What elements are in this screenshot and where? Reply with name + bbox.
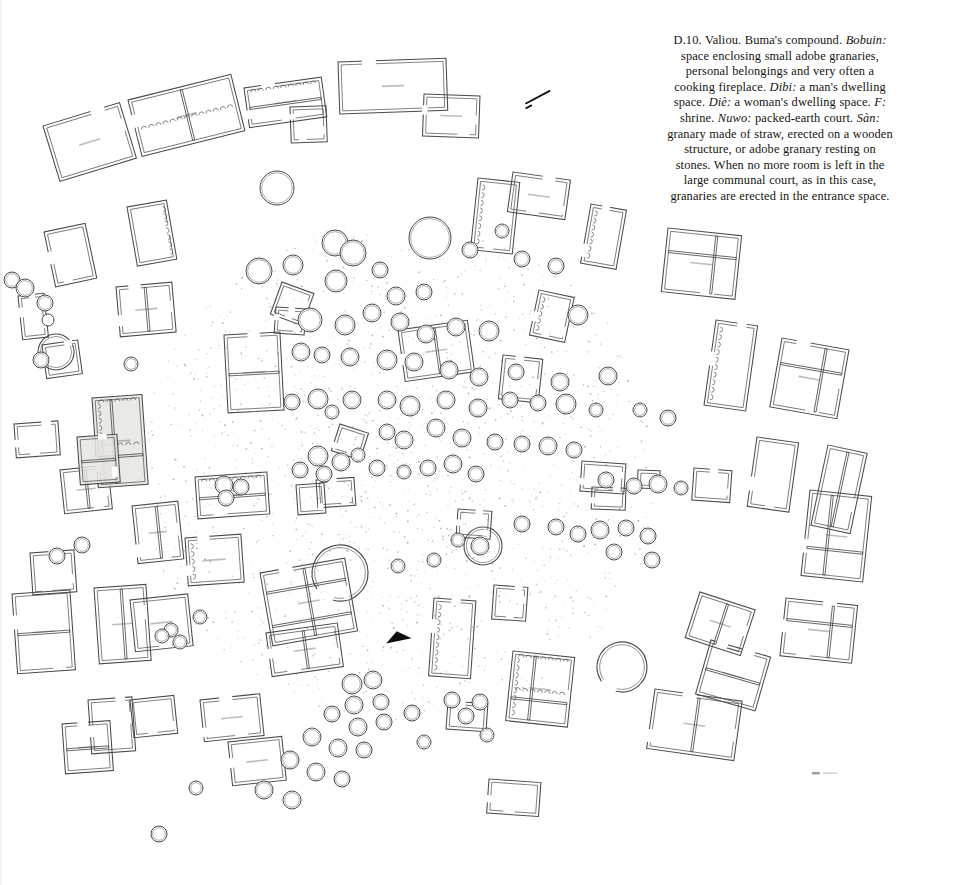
granary-circle: [480, 728, 494, 742]
granary-circle: [548, 258, 564, 274]
compound-outline: [130, 695, 178, 737]
compound-outline: [579, 203, 626, 270]
granary-circle: [391, 559, 405, 573]
compound-outline: [43, 223, 97, 287]
compound-outline: [692, 467, 732, 503]
granary-circle: [349, 718, 367, 736]
caption-term: Diè:: [709, 95, 732, 109]
granary-circle: [618, 520, 634, 536]
caption-term: Dibi:: [770, 80, 797, 94]
compound-outline: [685, 592, 755, 656]
granary-circle: [341, 348, 359, 366]
granary-circle: [416, 284, 432, 300]
granary-circle: [447, 318, 465, 336]
granary-circle: [218, 490, 234, 506]
granary-circle: [379, 424, 395, 440]
granary-circle: [33, 352, 49, 368]
granary-circle: [598, 472, 614, 488]
caption-text: granary made of straw, erected on a wood…: [667, 127, 893, 203]
granary-circle: [458, 708, 474, 724]
scale-mark: [523, 90, 552, 109]
compound-outline: [770, 337, 849, 419]
granary-circle: [417, 325, 435, 343]
granary-circle: [308, 389, 328, 409]
compound-outline: [703, 319, 758, 411]
granary-circle: [283, 791, 301, 809]
caption-text: shrine.: [680, 111, 718, 125]
granary-circle: [479, 321, 499, 341]
compound-outline: [127, 200, 177, 266]
compound-outline: [338, 57, 448, 114]
granary-circle: [495, 224, 509, 238]
compound-outline: [13, 420, 61, 458]
granary-circle: [566, 442, 582, 458]
compound-outline: [427, 597, 476, 679]
compound-outline: [470, 178, 519, 254]
granary-circle: [420, 460, 436, 476]
granary-circle: [640, 528, 656, 544]
granary-circle: [570, 526, 586, 542]
granary-circle: [404, 705, 420, 721]
compound-outline: [227, 736, 286, 786]
granary-circle: [391, 313, 409, 331]
scanned-page: D.10. Valiou. Buma's compound. Bobuin: s…: [0, 0, 962, 885]
granary-circle: [397, 465, 411, 479]
granary-circle: [292, 343, 310, 361]
granary-circle: [316, 466, 332, 482]
granary-circle: [539, 437, 557, 455]
granary-circle: [334, 771, 350, 787]
granary-circle: [591, 521, 609, 539]
granary-circle: [644, 552, 660, 568]
large-round-enclosure-right: [597, 642, 647, 692]
granary-circle: [292, 462, 308, 478]
caption-text: packed-earth court.: [752, 111, 857, 125]
compound-outline: [421, 94, 480, 138]
granary-circle: [340, 240, 366, 266]
granary-circle: [409, 217, 451, 259]
caption-term: Nuwo:: [718, 111, 752, 125]
granary-circle: [427, 553, 441, 567]
large-round-enclosure-left: [312, 545, 368, 601]
granary-circle: [42, 314, 54, 326]
compound-outline: [11, 590, 76, 674]
granary-circle: [514, 436, 530, 452]
compound-outline: [199, 693, 264, 742]
compound-outline: [290, 106, 327, 143]
granary-circle: [325, 270, 347, 292]
granary-circle: [674, 481, 688, 495]
caption-term: F:: [874, 95, 886, 109]
granary-circle: [502, 392, 518, 408]
granary-circle: [233, 479, 249, 495]
compound-outline: [131, 501, 184, 564]
granary-circle: [589, 403, 603, 417]
granary-circle: [335, 315, 355, 335]
compound-outline: [661, 228, 741, 299]
granary-circle: [298, 308, 322, 332]
granary-circle: [369, 460, 385, 476]
compound-outline: [296, 483, 326, 515]
caption-text: D.10. Valiou. Buma's compound.: [674, 33, 846, 47]
granary-circle: [530, 395, 546, 411]
granary-circle: [363, 304, 381, 322]
granary-circle: [395, 431, 413, 449]
granary-circle: [471, 537, 489, 555]
granary-circle: [246, 258, 272, 284]
figure-caption: D.10. Valiou. Buma's compound. Bobuin: s…: [665, 33, 895, 205]
caption-text: a woman's dwelling space.: [731, 95, 874, 109]
granary-circle: [649, 475, 667, 493]
compound-outline: [645, 688, 742, 761]
granary-circle: [469, 399, 487, 417]
granary-circle: [470, 368, 488, 386]
granary-circle: [437, 391, 455, 409]
granary-circle: [314, 347, 330, 363]
granary-circle: [514, 516, 530, 532]
granary-circle: [633, 403, 647, 417]
granary-circle: [351, 448, 365, 462]
granary-circle: [556, 394, 576, 414]
granary-circle: [376, 714, 392, 730]
granary-circle: [307, 763, 325, 781]
granary-circle: [377, 350, 397, 370]
granary-circle: [151, 826, 167, 842]
granary-circle: [487, 434, 503, 450]
granary-circle: [568, 305, 588, 325]
